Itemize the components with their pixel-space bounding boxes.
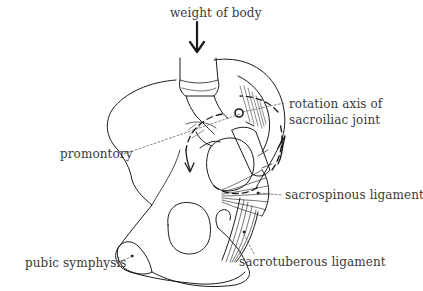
rotation-axis-marker	[235, 109, 243, 117]
label-rotation-axis-line2: sacroiliac joint	[289, 113, 380, 127]
label-pubic-symphysis: pubic symphysis	[25, 256, 127, 270]
label-promontory: promontory	[60, 147, 133, 161]
pelvis-drawing	[0, 0, 423, 291]
rotation-axis-leader	[243, 103, 284, 112]
label-weight-of-body: weight of body	[170, 6, 262, 20]
pelvis-diagram: weight of body rotation axis of sacroili…	[0, 0, 423, 291]
sacrotuberous-leader	[244, 234, 254, 254]
sacrotuberous-ligament	[222, 198, 258, 262]
sacrum-top	[179, 58, 218, 96]
label-sacrospinous-ligament: sacrospinous ligament	[285, 188, 423, 202]
promontory-leader	[124, 114, 240, 154]
obturator-foramen	[168, 202, 211, 254]
label-rotation-axis-line1: rotation axis of	[289, 97, 382, 111]
acetabulum	[207, 138, 254, 191]
label-sacrotuberous-ligament: sacrotuberous ligament	[239, 255, 386, 269]
